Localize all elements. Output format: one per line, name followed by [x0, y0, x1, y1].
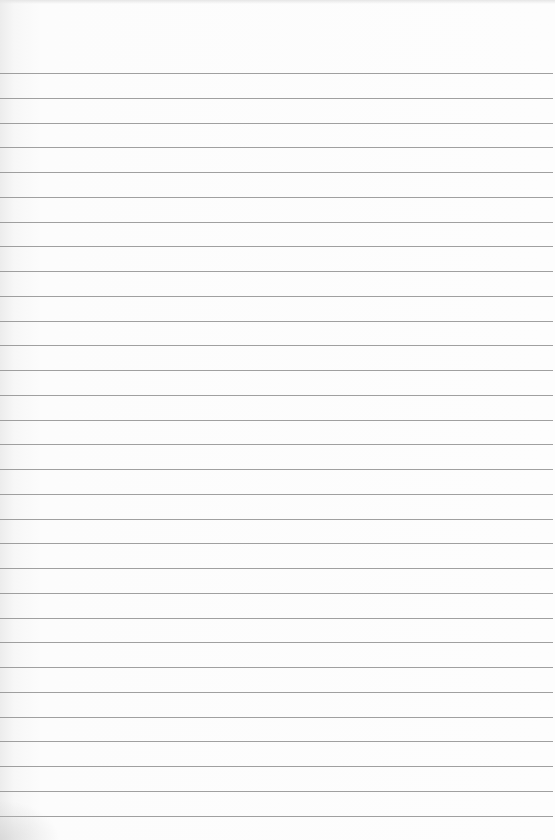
ruled-line — [0, 469, 553, 470]
ruled-line — [0, 766, 553, 767]
ruled-line — [0, 816, 553, 817]
ruled-line — [0, 692, 553, 693]
ruled-line — [0, 420, 553, 421]
ruled-line — [0, 296, 553, 297]
ruled-line — [0, 98, 553, 99]
ruled-line — [0, 593, 553, 594]
ruled-line — [0, 395, 553, 396]
ruled-line — [0, 494, 553, 495]
ruled-line — [0, 667, 553, 668]
ruled-line — [0, 741, 553, 742]
ruled-line — [0, 444, 553, 445]
ruled-line — [0, 543, 553, 544]
ruled-line — [0, 618, 553, 619]
ruled-line — [0, 73, 553, 74]
ruled-line — [0, 172, 553, 173]
ruled-line — [0, 147, 553, 148]
ruled-line — [0, 642, 553, 643]
ruled-line — [0, 321, 553, 322]
top-edge-shadow — [0, 0, 555, 4]
ruled-line — [0, 246, 553, 247]
ruled-line — [0, 345, 553, 346]
ruled-line — [0, 222, 553, 223]
ruled-line — [0, 717, 553, 718]
ruled-line — [0, 197, 553, 198]
ruled-line — [0, 370, 553, 371]
ruled-line — [0, 519, 553, 520]
ruled-line — [0, 123, 553, 124]
lined-paper-page — [0, 0, 555, 840]
ruled-line — [0, 271, 553, 272]
ruled-line — [0, 791, 553, 792]
ruled-line — [0, 568, 553, 569]
